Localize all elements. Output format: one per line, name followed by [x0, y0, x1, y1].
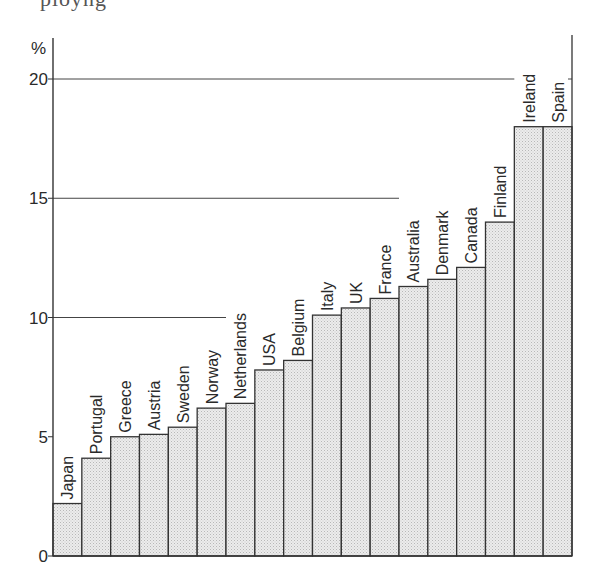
bar-label: Canada	[463, 207, 480, 263]
bar-label: Greece	[117, 380, 134, 433]
bar-australia	[399, 286, 428, 556]
bar-label: Portugal	[88, 395, 105, 455]
bar-label: UK	[348, 281, 365, 304]
bar-label: Spain	[550, 82, 567, 123]
bar-greece	[111, 437, 140, 556]
y-tick-label: 0	[39, 547, 48, 566]
bar-italy	[313, 315, 342, 556]
bar-usa	[255, 370, 284, 556]
bar-canada	[457, 267, 486, 556]
bar-label: Austria	[146, 380, 163, 430]
bar-spain	[543, 127, 572, 556]
bar-ireland	[514, 127, 543, 556]
bar-japan	[53, 504, 82, 556]
bar-uk	[341, 308, 370, 556]
bar-label: France	[377, 245, 394, 295]
bar-label: Italy	[319, 282, 336, 311]
bar-label: Belgium	[290, 299, 307, 357]
y-tick-label: 15	[29, 189, 48, 208]
bar-label: Netherlands	[232, 313, 249, 399]
bar-label: Norway	[204, 350, 221, 404]
y-tick-label: 5	[39, 428, 48, 447]
bar-norway	[197, 408, 226, 556]
y-tick-label: 10	[29, 309, 48, 328]
bar-label: Japan	[59, 456, 76, 500]
bar-finland	[486, 222, 515, 556]
bar-netherlands	[226, 403, 255, 556]
bar-denmark	[428, 279, 457, 556]
y-axis-label: %	[31, 39, 46, 58]
bar-label: Sweden	[175, 365, 192, 423]
bar-france	[370, 298, 399, 556]
bar-label: Ireland	[521, 74, 538, 123]
bar-label: Denmark	[434, 209, 451, 275]
bar-austria	[140, 434, 169, 556]
bar-label: USA	[261, 333, 278, 366]
bar-chart: JapanPortugalGreeceAustriaSwedenNorwayNe…	[0, 0, 601, 586]
bar-portugal	[82, 458, 111, 556]
bar-label: Finland	[492, 166, 509, 218]
bar-sweden	[168, 427, 197, 556]
bar-belgium	[284, 360, 313, 556]
bar-label: Australia	[405, 220, 422, 282]
y-tick-label: 20	[29, 70, 48, 89]
